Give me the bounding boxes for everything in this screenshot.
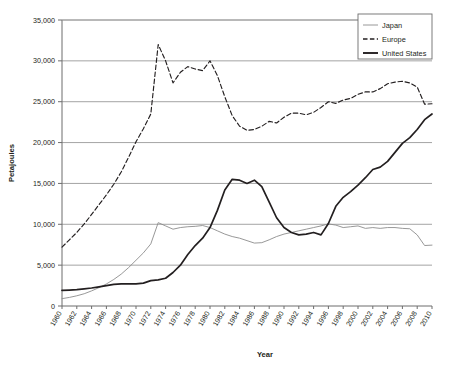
y-tick-label: 15,000 xyxy=(33,179,55,188)
x-tick-label: 1972 xyxy=(137,310,153,328)
series-line-united-states xyxy=(62,114,432,291)
y-tick-label: 30,000 xyxy=(33,56,55,65)
y-tick-label: 5,000 xyxy=(37,261,55,270)
x-tick-label: 1992 xyxy=(285,310,301,328)
x-tick-label: 1996 xyxy=(314,310,330,328)
x-tick-label: 1980 xyxy=(196,310,212,328)
y-tick-label: 35,000 xyxy=(33,16,55,25)
y-tick-label: 20,000 xyxy=(33,138,55,147)
x-tick-label: 1976 xyxy=(166,310,182,328)
y-axis-title: Petajoules xyxy=(7,144,16,182)
legend-label-europe: Europe xyxy=(382,35,406,44)
x-tick-label: 1966 xyxy=(92,310,108,328)
legend-label-japan: Japan xyxy=(382,21,402,30)
x-tick-label: 1986 xyxy=(240,310,256,328)
y-tick-label: 10,000 xyxy=(33,220,55,229)
y-tick-label: 25,000 xyxy=(33,97,55,106)
y-tick-label: 0 xyxy=(51,302,55,311)
x-tick-label: 1988 xyxy=(255,310,271,328)
x-axis-title: Year xyxy=(257,350,273,359)
x-tick-label: 1984 xyxy=(226,310,242,328)
x-tick-label: 2000 xyxy=(344,310,360,328)
x-tick-label: 1998 xyxy=(329,310,345,328)
x-tick-label: 2002 xyxy=(359,310,375,328)
x-tick-label: 1978 xyxy=(181,310,197,328)
series-line-japan xyxy=(62,223,432,299)
x-tick-label: 2008 xyxy=(403,310,419,328)
series-line-europe xyxy=(62,45,432,248)
x-tick-label: 1964 xyxy=(78,310,94,328)
x-tick-label: 2004 xyxy=(374,310,390,328)
line-chart: 05,00010,00015,00020,00025,00030,00035,0… xyxy=(0,0,465,371)
x-tick-label: 1960 xyxy=(48,310,64,328)
x-tick-label: 1982 xyxy=(211,310,227,328)
x-tick-label: 1994 xyxy=(300,310,316,328)
legend-label-united-states: United States xyxy=(382,49,427,58)
x-tick-label: 1962 xyxy=(63,310,79,328)
x-tick-label: 1974 xyxy=(152,310,168,328)
x-tick-label: 1970 xyxy=(122,310,138,328)
x-tick-label: 1990 xyxy=(270,310,286,328)
x-tick-label: 2010 xyxy=(418,310,434,328)
x-tick-label: 1968 xyxy=(107,310,123,328)
x-tick-label: 2006 xyxy=(388,310,404,328)
